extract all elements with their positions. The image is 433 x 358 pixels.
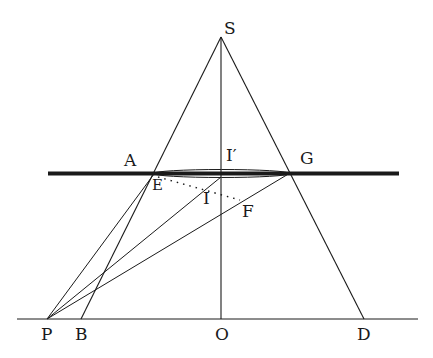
cone-edge-right	[221, 37, 364, 319]
geometry-figure	[0, 0, 433, 358]
dotted-E-F	[158, 177, 240, 200]
label-A: A	[124, 152, 136, 169]
label-G: G	[300, 150, 314, 167]
ray-P-E	[47, 174, 154, 319]
ray-P-I	[47, 177, 221, 319]
label-O: O	[215, 326, 229, 343]
label-F: F	[242, 203, 254, 220]
ray-P-G	[47, 173, 290, 319]
diagram-canvas: S A I′ G E I F P B O D	[0, 0, 433, 358]
label-P: P	[41, 326, 52, 343]
label-B: B	[75, 326, 88, 343]
label-S: S	[224, 20, 236, 37]
label-E: E	[152, 178, 163, 193]
label-I-prime: I′	[226, 147, 237, 164]
label-D: D	[357, 326, 371, 343]
label-I: I	[203, 190, 210, 207]
